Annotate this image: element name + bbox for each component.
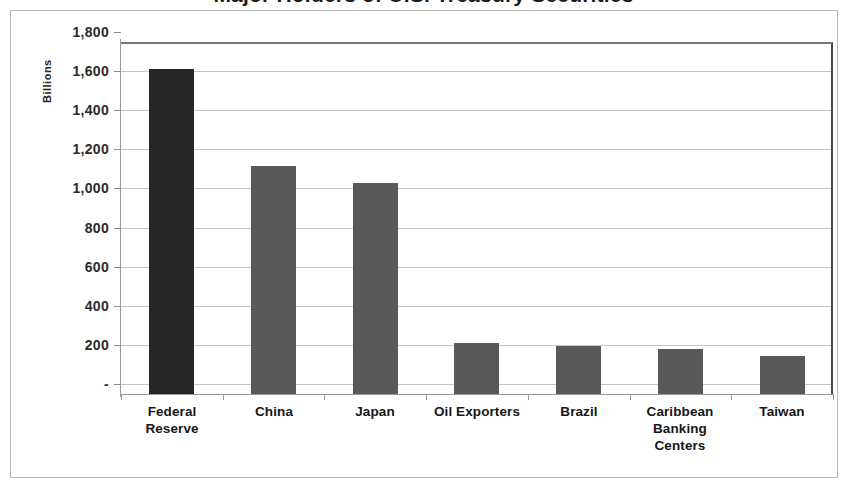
bar <box>556 346 601 394</box>
y-tick-label: 1,800 <box>43 24 109 40</box>
category-label-line: Oil Exporters <box>426 403 528 420</box>
bar <box>454 343 499 394</box>
x-axis-category-label: China <box>223 403 325 420</box>
x-tick-mark <box>324 394 325 400</box>
bar <box>149 69 194 394</box>
y-tick-mark <box>114 32 121 33</box>
category-label-line: Brazil <box>528 403 630 420</box>
bar <box>353 183 398 394</box>
x-tick-mark <box>731 394 732 400</box>
y-tick-label: 1,600 <box>43 63 109 79</box>
x-tick-mark <box>630 394 631 400</box>
y-tick-label: 200 <box>43 337 109 353</box>
bar <box>760 356 805 394</box>
category-label-line: Banking <box>629 420 731 437</box>
y-tick-label: 1,200 <box>43 141 109 157</box>
y-tick-label: 600 <box>43 259 109 275</box>
category-label-line: Reserve <box>121 420 223 437</box>
y-tick-label: 1,400 <box>43 102 109 118</box>
x-axis-category-label: Taiwan <box>731 403 833 420</box>
x-axis-category-label: Brazil <box>528 403 630 420</box>
y-tick-label: 800 <box>43 220 109 236</box>
category-label-line: Japan <box>324 403 426 420</box>
chart-frame: Billions -2004006008001,0001,2001,4001,6… <box>10 10 838 478</box>
category-label-line: Federal <box>121 403 223 420</box>
x-axis-category-label: FederalReserve <box>121 403 223 437</box>
bar <box>658 349 703 394</box>
x-tick-mark <box>121 394 122 400</box>
y-tick-label: 1,000 <box>43 180 109 196</box>
category-label-line: Caribbean <box>629 403 731 420</box>
x-tick-mark <box>426 394 427 400</box>
x-axis-category-labels: FederalReserveChinaJapanOil ExportersBra… <box>121 403 833 483</box>
x-axis-category-label: Oil Exporters <box>426 403 528 420</box>
x-tick-mark <box>223 394 224 400</box>
y-tick-label: 400 <box>43 298 109 314</box>
chart-screenshot: Major Holders of U.S. Treasury Securitie… <box>0 0 847 486</box>
bar <box>251 166 296 394</box>
category-label-line: China <box>223 403 325 420</box>
category-label-line: Taiwan <box>731 403 833 420</box>
x-axis-line <box>120 394 834 395</box>
category-label-line: Centers <box>629 437 731 454</box>
x-axis-category-label: CaribbeanBankingCenters <box>629 403 731 454</box>
chart-title: Major Holders of U.S. Treasury Securitie… <box>0 0 847 7</box>
x-tick-mark <box>833 394 834 400</box>
bar-series <box>121 42 833 394</box>
x-axis-category-label: Japan <box>324 403 426 420</box>
chart-title-clipped: Major Holders of U.S. Treasury Securitie… <box>0 0 847 10</box>
x-tick-mark <box>528 394 529 400</box>
y-tick-label: - <box>43 376 109 392</box>
